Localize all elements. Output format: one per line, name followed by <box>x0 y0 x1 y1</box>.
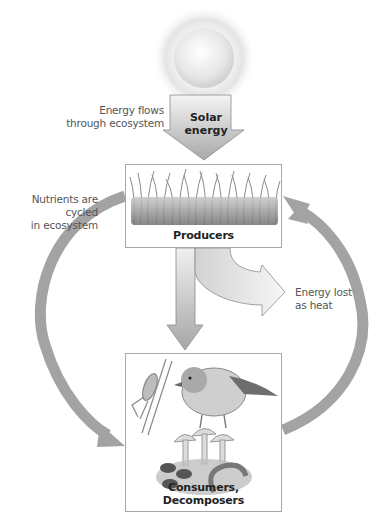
heat-line2: as heat <box>295 299 375 312</box>
solar-label-line2: energy <box>181 124 231 137</box>
solar-label-line1: Solar <box>181 111 231 124</box>
solar-energy-label: Solar energy <box>181 111 231 137</box>
nutrients-line2: in ecosystem <box>2 219 98 232</box>
nutrients-line1: Nutrients are cycled <box>2 193 98 219</box>
energy-flows-line2: through ecosystem <box>60 117 164 130</box>
consumers-box: Consumers, Decomposers <box>125 353 282 512</box>
consumers-label: Consumers, Decomposers <box>126 481 281 507</box>
nutrients-annotation: Nutrients are cycled in ecosystem <box>2 193 98 232</box>
heat-line1: Energy lost <box>295 286 375 299</box>
producers-label: Producers <box>126 229 281 242</box>
bird-icon <box>174 360 279 430</box>
energy-flows-annotation: Energy flows through ecosystem <box>60 104 164 130</box>
heat-loss-arrow <box>195 248 285 316</box>
producers-box: Producers <box>125 164 282 248</box>
grass-icon <box>126 167 283 231</box>
sun-icon <box>152 6 256 110</box>
nutrient-cycle-arrow-right <box>283 212 363 430</box>
energy-flows-line1: Energy flows <box>60 104 164 117</box>
heat-annotation: Energy lost as heat <box>295 286 375 312</box>
